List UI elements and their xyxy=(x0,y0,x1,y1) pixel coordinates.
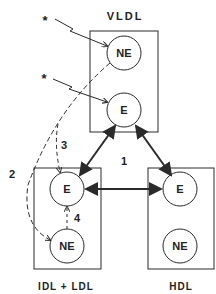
hdl-ne-label: NE xyxy=(172,240,187,252)
idl-ldl-label: IDL + LDL xyxy=(38,281,94,292)
vldl-label: VLDL xyxy=(107,10,144,22)
pathway-2-label: 2 xyxy=(9,168,15,180)
lipoprotein-diagram: VLDL NE E E NE IDL + LDL E NE HDL 1 * * … xyxy=(0,0,216,294)
star-1: * xyxy=(42,13,48,28)
ne-input-arrow xyxy=(55,19,107,46)
pathway-4-label: 4 xyxy=(74,212,81,224)
idl-ldl-e-label: E xyxy=(63,183,70,195)
hdl-e-label: E xyxy=(176,183,183,195)
pathway-3-label: 3 xyxy=(61,139,67,151)
idl-ldl-ne-label: NE xyxy=(59,240,74,252)
pathway-1-label: 1 xyxy=(121,155,127,167)
e-input-arrow xyxy=(53,79,107,102)
pathway-3-dashed-arrow xyxy=(56,124,60,172)
star-2: * xyxy=(41,71,47,86)
vldl-e-label: E xyxy=(120,104,127,116)
hdl-label: HDL xyxy=(169,281,193,292)
vldl-ne-label: NE xyxy=(116,47,131,59)
